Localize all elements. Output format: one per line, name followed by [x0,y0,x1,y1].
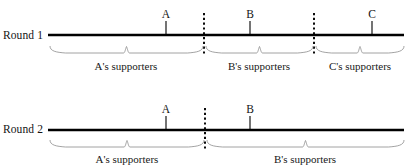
round-1-group-label-3: C's supporters [329,60,391,72]
round-label-round-2: Round 2 [3,123,43,135]
round-1-brace-1 [50,46,203,53]
round-2-group-label-2: B's supporters [274,153,336,165]
round-1-brace-2 [206,46,313,53]
round-2-brace-1 [50,140,204,147]
round-1-candidate-label-A: A [162,8,170,20]
diagram-vector-layer [0,0,408,165]
round-1-brace-3 [316,46,404,53]
election-rounds-diagram: Round 1ABCA's supportersB's supportersC'… [0,0,408,165]
round-1-group-label-1: A's supporters [95,60,158,72]
round-2-brace-2 [207,140,404,147]
round-2-group-label-1: A's supporters [96,153,159,165]
round-1-candidate-label-B: B [246,8,254,20]
round-2-candidate-label-B: B [246,103,254,115]
round-1-candidate-label-C: C [368,8,376,20]
round-label-round-1: Round 1 [3,29,43,41]
round-2-candidate-label-A: A [162,103,170,115]
round-1-group-label-2: B's supporters [228,60,290,72]
